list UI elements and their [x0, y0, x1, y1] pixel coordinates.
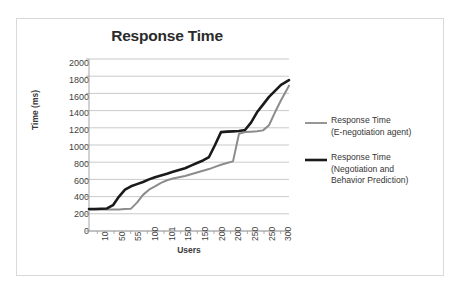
- chart-legend: Response Time (E-negotiation agent) Resp…: [305, 115, 441, 201]
- legend-swatch-icon: [305, 120, 327, 126]
- legend-label-line-1: Response Time: [331, 152, 391, 162]
- legend-label-line-2: (E-negotiation agent): [331, 127, 441, 139]
- x-tick-label: 10: [101, 232, 110, 241]
- chart-container: Response Time Time (ms) 2000 1800 1600 1…: [16, 18, 444, 276]
- plot-area-wrapper: Time (ms) 2000 1800 1600 1400 1200 1000 …: [17, 19, 445, 277]
- x-tick-label: 150: [184, 227, 193, 241]
- legend-label-line-2: (Negotiation and: [331, 164, 441, 176]
- legend-label-line-1: Response Time: [331, 115, 391, 125]
- legend-label-line-3: Behavior Prediction): [331, 175, 441, 187]
- x-tick-label: 150: [201, 227, 210, 241]
- x-axis-tick-labels: 105055100101150150200200250250300: [89, 211, 289, 247]
- legend-label-negotiation-behavior-prediction: Response Time (Negotiation and Behavior …: [331, 152, 441, 187]
- x-axis-title: Users: [87, 245, 291, 255]
- x-tick-label: 200: [234, 227, 243, 241]
- legend-swatch-icon: [305, 157, 327, 163]
- legend-label-e-negotiation-agent: Response Time (E-negotiation agent): [331, 115, 441, 138]
- x-tick-label: 250: [251, 227, 260, 241]
- x-tick-label: 300: [284, 227, 293, 241]
- x-tick-label: 55: [134, 232, 143, 241]
- x-tick-label: 250: [268, 227, 277, 241]
- x-tick-label: 100: [151, 227, 160, 241]
- legend-item-negotiation-behavior-prediction: Response Time (Negotiation and Behavior …: [305, 152, 441, 187]
- x-tick-label: 200: [218, 227, 227, 241]
- x-tick-label: 101: [168, 227, 177, 241]
- legend-item-e-negotiation-agent: Response Time (E-negotiation agent): [305, 115, 441, 138]
- x-tick-label: 50: [118, 232, 127, 241]
